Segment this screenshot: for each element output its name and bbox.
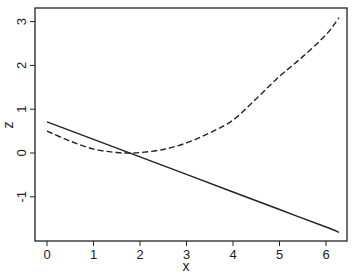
x-axis-label: x bbox=[183, 258, 190, 274]
line-chart: 0123456 -10123 x z bbox=[0, 0, 354, 280]
y-tick-label: -1 bbox=[14, 191, 29, 203]
y-tick-label: 1 bbox=[14, 106, 29, 113]
plot-frame bbox=[35, 8, 347, 241]
series-layer bbox=[47, 18, 339, 233]
plot-border bbox=[35, 8, 347, 241]
y-axis-label: z bbox=[0, 122, 16, 129]
y-tick-label: 2 bbox=[14, 62, 29, 69]
y-tick-label: 0 bbox=[14, 149, 29, 156]
x-tick-label: 6 bbox=[322, 247, 329, 262]
x-tick-label: 0 bbox=[43, 247, 50, 262]
x-tick-label: 1 bbox=[90, 247, 97, 262]
y-tick-label: 3 bbox=[14, 18, 29, 25]
series-solid-line bbox=[47, 122, 339, 232]
y-axis: -10123 bbox=[14, 18, 35, 203]
x-tick-label: 4 bbox=[229, 247, 236, 262]
x-tick-label: 5 bbox=[276, 247, 283, 262]
series-dashed-line bbox=[47, 18, 339, 153]
x-tick-label: 2 bbox=[136, 247, 143, 262]
